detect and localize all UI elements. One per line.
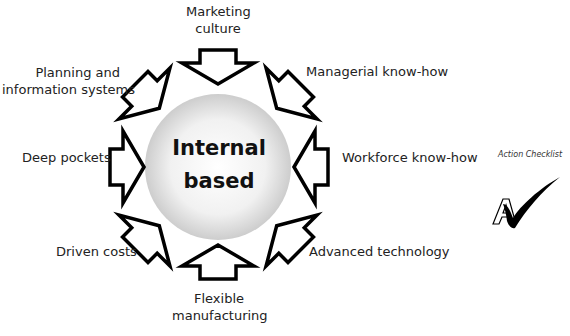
label-deep-pockets: Deep pockets <box>22 149 111 166</box>
label-advanced-technology: Advanced technology <box>309 243 450 260</box>
label-driven-costs: Driven costs <box>56 243 137 260</box>
label-line: Managerial know-how <box>306 63 448 80</box>
arrow-icon-deep-pockets <box>110 131 144 203</box>
label-line: culture <box>186 20 250 37</box>
label-workforce-know-how: Workforce know-how <box>342 149 478 166</box>
center-label-line2: based <box>146 165 292 198</box>
label-flexible-manufacturing: Flexible manufacturing <box>172 290 266 324</box>
label-line: Workforce know-how <box>342 149 478 166</box>
center-label-line1: Internal <box>146 132 292 165</box>
label-line: Marketing <box>186 3 250 20</box>
label-line: Planning and <box>2 64 120 81</box>
label-line: Advanced technology <box>309 243 450 260</box>
label-planning-information-systems: Planning and information systems <box>2 64 120 98</box>
action-checklist-logo-icon <box>493 177 560 228</box>
label-line: Deep pockets <box>22 149 111 166</box>
label-line: Flexible <box>172 290 266 307</box>
arrow-icon-workforce-know-how <box>294 131 328 203</box>
label-managerial-know-how: Managerial know-how <box>306 63 448 80</box>
label-marketing-culture: Marketing culture <box>186 3 250 37</box>
label-line: information systems <box>2 81 120 98</box>
label-line: manufacturing <box>172 307 266 324</box>
arrow-icon-marketing-culture <box>182 50 254 84</box>
label-line: Driven costs <box>56 243 137 260</box>
action-checklist-caption: Action Checklist <box>498 150 562 159</box>
center-label: Internal based <box>146 132 292 198</box>
arrow-icon-flexible-manufacturing <box>182 245 254 279</box>
